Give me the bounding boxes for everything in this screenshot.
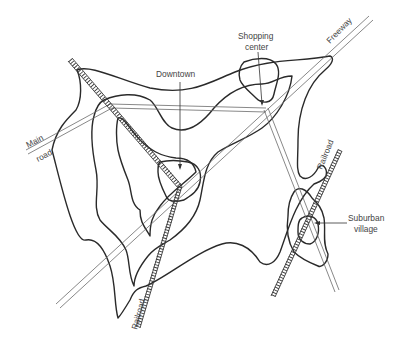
label-main-road-line1: Main [24,132,45,150]
label-main-road-line2: road [34,147,54,164]
label-freeway: Freeway [324,15,354,46]
label-shopping-line2: center [245,42,268,52]
railroad-right [271,150,342,297]
label-downtown: Downtown [156,69,195,79]
shopping-pointer [258,52,262,104]
shopping-arrowhead-icon [260,100,264,106]
downtown-arrowhead-icon [178,164,182,170]
contour-third [117,118,197,236]
contour-suburban-outer [287,189,328,267]
label-suburban-line1: Suburban [348,213,385,223]
label-suburban-line2: village [354,224,378,234]
label-pointers [178,52,347,225]
contour-outer [52,56,332,318]
contour-lines [52,56,332,318]
land-value-contour-map: Downtown Shopping center Freeway Main ro… [0,0,413,362]
label-shopping-line1: Shopping [238,31,274,41]
